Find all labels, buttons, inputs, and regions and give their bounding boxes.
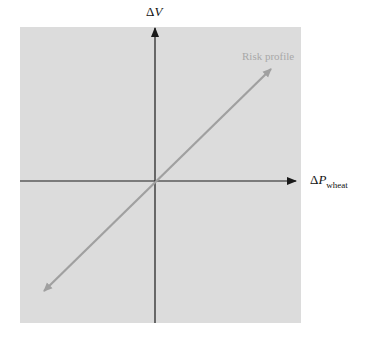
risk-profile-label: Risk profile [242, 50, 294, 62]
risk-profile-line [44, 69, 271, 291]
x-axis-label: ΔPwheat [310, 172, 348, 188]
y-variable: V [154, 4, 162, 19]
x-subscript: wheat [326, 180, 348, 190]
y-axis-label: ΔV [146, 4, 162, 20]
